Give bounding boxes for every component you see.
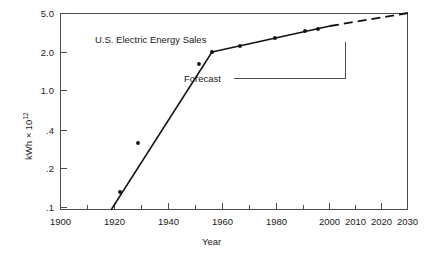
forecast-annotation-label: Forecast (184, 74, 221, 84)
y-axis-title-base: kWh × 10 (23, 120, 34, 160)
series-forecast-line (330, 13, 408, 26)
y-axis-title-exponent: 12 (22, 112, 29, 119)
x-tick-label-8: 2030 (386, 217, 429, 227)
x-tick-label-2: 1940 (147, 217, 190, 227)
x-tick-label-4: 1980 (255, 217, 298, 227)
chart-title: U.S. Electric Energy Sales (95, 35, 206, 45)
data-point-markers (118, 27, 320, 194)
y-axis-title: kWh × 1012 (22, 112, 34, 160)
x-tick-label-0: 1900 (39, 217, 82, 227)
y-tick-label-2: 1.0 (20, 86, 54, 96)
x-tick-label-3: 1960 (201, 217, 244, 227)
x-axis-title: Year (202, 237, 221, 247)
x-tick-label-1: 1920 (93, 217, 136, 227)
y-tick-label-0: 5.0 (20, 9, 54, 19)
y-tick-label-5: .1 (20, 203, 54, 213)
chart-figure: 5.0 2.0 1.0 .4 .2 .1 1900 1920 1940 1960… (0, 0, 429, 262)
y-tick-label-1: 2.0 (20, 48, 54, 58)
series-recent-line (212, 26, 330, 52)
y-tick-marks (60, 14, 67, 208)
forecast-leader-line (234, 42, 346, 79)
y-tick-label-4: .2 (20, 164, 54, 174)
